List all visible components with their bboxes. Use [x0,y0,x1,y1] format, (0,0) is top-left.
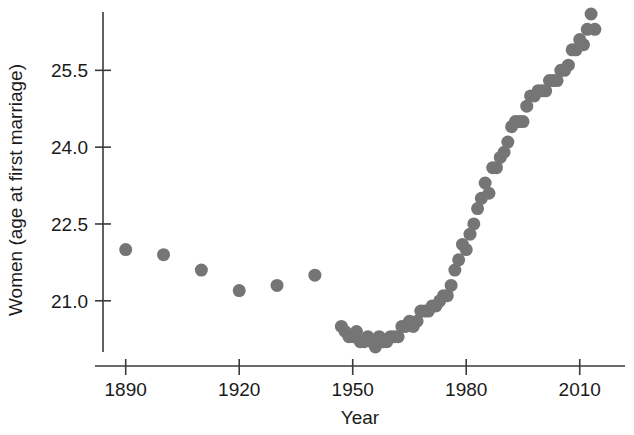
y-tick-label: 24.0 [51,137,88,158]
chart-canvas: 21.022.524.025.5 18901920195019802010 Ye… [0,0,634,435]
data-point [482,187,495,200]
data-point [501,136,514,149]
data-point [157,248,170,261]
x-tick-label: 1890 [105,379,147,400]
x-tick-label: 1920 [218,379,260,400]
data-point [445,279,458,292]
data-point [233,284,246,297]
data-point [195,264,208,277]
x-tick-label: 2010 [559,379,601,400]
data-point [467,217,480,230]
y-axis-ticks: 21.022.524.025.5 [51,60,111,311]
data-point [308,269,321,282]
x-axis-ticks: 18901920195019802010 [105,359,601,400]
x-tick-label: 1980 [445,379,487,400]
data-points-group [119,8,601,354]
y-tick-label: 25.5 [51,60,88,81]
y-axis-title: Women (age at first marriage) [5,64,26,316]
scatter-chart-figure: 21.022.524.025.5 18901920195019802010 Ye… [0,0,634,435]
axes-group [95,12,625,366]
data-point [577,38,590,51]
data-point [585,8,598,21]
x-axis-title: Year [341,407,380,428]
data-point [516,115,529,128]
x-tick-label: 1950 [332,379,374,400]
y-tick-label: 22.5 [51,214,88,235]
data-point [460,243,473,256]
data-point [562,59,575,72]
y-tick-label: 21.0 [51,291,88,312]
data-point [271,279,284,292]
data-point [119,243,132,256]
data-point [588,23,601,36]
